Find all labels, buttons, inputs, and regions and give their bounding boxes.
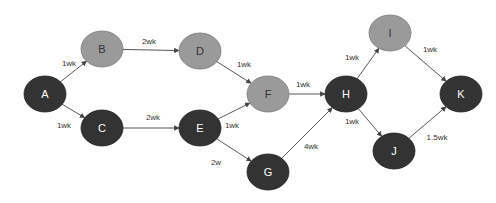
edge-h-j xyxy=(358,109,381,137)
node-label: H xyxy=(342,88,350,100)
node-label: K xyxy=(457,88,465,100)
node-label: J xyxy=(391,145,397,157)
node-h: H xyxy=(325,76,367,112)
node-k: K xyxy=(440,76,482,112)
edge-duration-label: 1wk xyxy=(345,53,360,62)
node-i: I xyxy=(369,15,411,51)
network-diagram: 1wk1wk2wk2wk1wk1wk2w1wk4wk1wk1wk1wk1.5wk… xyxy=(0,0,496,203)
edge-duration-label: 2wk xyxy=(142,37,157,46)
node-c: C xyxy=(81,110,123,146)
edge-duration-label: 2w xyxy=(211,158,221,167)
node-g: G xyxy=(247,154,289,190)
edge-duration-label: 1wk xyxy=(62,59,77,68)
edge-duration-label: 1wk xyxy=(345,117,360,126)
node-label: E xyxy=(196,122,203,134)
node-label: D xyxy=(196,45,204,57)
edge-duration-label: 1wk xyxy=(423,45,438,54)
nodes-layer: ABCDEFGHIJK xyxy=(24,15,482,190)
edge-a-c xyxy=(62,104,85,117)
node-label: C xyxy=(98,122,106,134)
node-f: F xyxy=(247,76,289,112)
node-label: I xyxy=(388,27,391,39)
node-label: F xyxy=(265,88,272,100)
edge-duration-label: 2wk xyxy=(146,113,161,122)
edge-duration-label: 4wk xyxy=(304,142,319,151)
node-label: B xyxy=(98,43,105,55)
node-b: B xyxy=(81,31,123,67)
node-a: A xyxy=(24,76,66,112)
edge-e-f xyxy=(218,103,250,119)
edge-duration-label: 1wk xyxy=(225,121,240,130)
edge-duration-label: 1wk xyxy=(237,60,252,69)
node-label: A xyxy=(41,88,49,100)
edge-e-g xyxy=(217,139,251,161)
edge-b-d xyxy=(123,49,179,50)
edge-duration-label: 1wk xyxy=(57,121,72,130)
node-j: J xyxy=(373,133,415,169)
node-e: E xyxy=(179,110,221,146)
node-label: G xyxy=(264,166,273,178)
edge-duration-label: 1wk xyxy=(296,80,311,89)
node-d: D xyxy=(179,33,221,69)
edge-h-i xyxy=(357,48,379,78)
edge-duration-label: 1.5wk xyxy=(427,133,449,142)
